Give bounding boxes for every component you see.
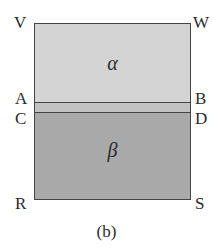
alpha-phase-region: α: [34, 23, 191, 103]
point-v-label: V: [14, 14, 26, 31]
beta-label: β: [35, 139, 190, 162]
alpha-label: α: [35, 52, 190, 75]
point-w-label: W: [193, 14, 209, 31]
figure-caption: (b): [0, 222, 213, 242]
point-d-label: D: [195, 110, 207, 127]
point-b-label: B: [195, 90, 206, 107]
point-a-label: A: [15, 90, 27, 107]
point-s-label: S: [195, 195, 204, 212]
interface-region: [34, 102, 191, 113]
point-c-label: C: [15, 110, 26, 127]
beta-phase-region: β: [34, 113, 191, 200]
point-r-label: R: [15, 195, 26, 212]
